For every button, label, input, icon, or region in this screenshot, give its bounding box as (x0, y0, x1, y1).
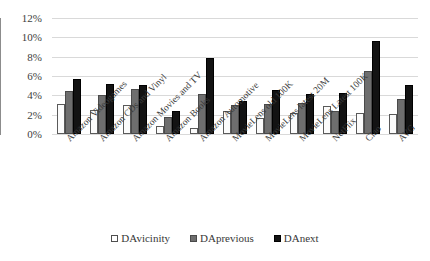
legend-label: DAprevious (200, 232, 254, 244)
bar-group (52, 18, 85, 134)
legend-swatch-icon (190, 235, 197, 242)
legend-swatch-icon (111, 235, 118, 242)
y-axis-tick-label: 6% (27, 71, 42, 82)
y-axis-tick-label: 2% (27, 109, 42, 120)
legend-label: DAvicinity (121, 232, 170, 244)
bar-chart: 0%2%4%6%8%10%12% Amazon VideogamesAmazon… (0, 0, 430, 261)
legend-item[interactable]: DAnext (274, 232, 319, 244)
legend-item[interactable]: DAvicinity (111, 232, 170, 244)
y-axis-tick-label: 12% (22, 13, 42, 24)
y-axis-tick-label: 8% (27, 51, 42, 62)
bar (372, 41, 380, 134)
chart-legend: DAvicinityDApreviousDAnext (0, 232, 430, 244)
legend-label: DAnext (284, 232, 319, 244)
bar (190, 128, 198, 134)
y-axis-tick-labels: 0%2%4%6%8%10%12% (0, 0, 48, 152)
legend-item[interactable]: DAprevious (190, 232, 254, 244)
y-axis-tick-label: 0% (27, 129, 42, 140)
y-axis-tick-label: 4% (27, 90, 42, 101)
bar (389, 114, 397, 134)
y-axis-tick-label: 10% (22, 32, 42, 43)
y-axis-line (0, 18, 1, 135)
legend-swatch-icon (274, 235, 281, 242)
bar (156, 126, 164, 134)
bar (57, 104, 65, 134)
bar-group (385, 18, 418, 134)
x-axis-category-labels: Amazon VideogamesAmazon CDs and VinylAma… (52, 135, 418, 225)
